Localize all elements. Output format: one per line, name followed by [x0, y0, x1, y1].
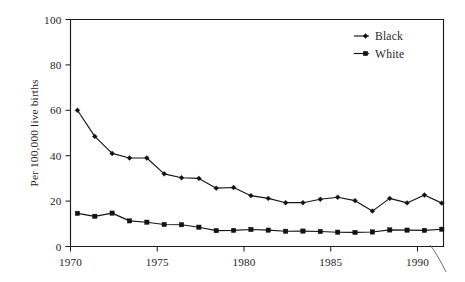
data-point-black [214, 186, 219, 191]
x-tick-label: 1970 [59, 256, 82, 268]
legend-marker-white [363, 51, 367, 55]
series-line-black [77, 110, 441, 211]
legend-marker-black [363, 34, 368, 39]
data-point-black [248, 193, 253, 198]
data-point-white [162, 222, 166, 226]
data-point-white [440, 227, 444, 231]
data-point-black [353, 198, 358, 203]
y-tick-label: 100 [44, 14, 62, 26]
data-point-white [388, 228, 392, 232]
series-line-white [77, 213, 441, 232]
data-point-white [179, 223, 183, 227]
series-white [75, 211, 444, 235]
series-black [75, 108, 444, 214]
x-tick-label: 1985 [319, 256, 342, 268]
data-point-white [335, 230, 339, 234]
data-point-black [318, 197, 323, 202]
x-tick-label: 1980 [232, 256, 255, 268]
chart-figure: 020406080100 19701975198019851990 Per 10… [0, 0, 465, 282]
x-tick-label: 1975 [146, 256, 169, 268]
legend-label-black: Black [375, 30, 403, 43]
data-point-white [353, 230, 357, 234]
x-tick-label: 1990 [406, 256, 429, 268]
line-chart-canvas: 020406080100 19701975198019851990 Per 10… [0, 0, 465, 282]
data-point-white [75, 211, 79, 215]
data-point-black [301, 200, 306, 205]
data-point-black [231, 185, 236, 190]
y-tick-label: 60 [50, 104, 62, 116]
data-point-white [214, 228, 218, 232]
legend-label-white: White [375, 48, 404, 61]
data-point-white [422, 228, 426, 232]
y-tick-label: 20 [50, 195, 62, 207]
data-point-white [110, 211, 114, 215]
data-series-layer [75, 108, 444, 235]
y-tick-label: 0 [56, 241, 62, 253]
data-point-white [93, 214, 97, 218]
data-point-white [283, 229, 287, 233]
data-point-white [231, 228, 235, 232]
data-point-black [196, 176, 201, 181]
data-point-white [197, 225, 201, 229]
data-point-black [422, 193, 427, 198]
data-point-white [127, 219, 131, 223]
data-point-white [301, 229, 305, 233]
data-point-black [283, 200, 288, 205]
page-curl-mark [430, 245, 446, 272]
data-point-white [266, 228, 270, 232]
chart-legend: BlackWhite [354, 30, 404, 61]
x-axis-ticks: 19701975198019851990 [59, 247, 429, 268]
data-point-black [266, 196, 271, 201]
y-tick-label: 40 [50, 150, 62, 162]
y-axis-ticks: 020406080100 [44, 14, 70, 253]
data-point-white [405, 228, 409, 232]
data-point-black [405, 200, 410, 205]
data-point-black [335, 195, 340, 200]
data-point-white [370, 230, 374, 234]
data-point-white [318, 229, 322, 233]
y-axis-title: Per 100,000 live births [28, 79, 40, 187]
data-point-black [179, 175, 184, 180]
y-tick-label: 80 [50, 59, 62, 71]
data-point-white [249, 227, 253, 231]
data-point-black [127, 156, 132, 161]
data-point-white [145, 220, 149, 224]
